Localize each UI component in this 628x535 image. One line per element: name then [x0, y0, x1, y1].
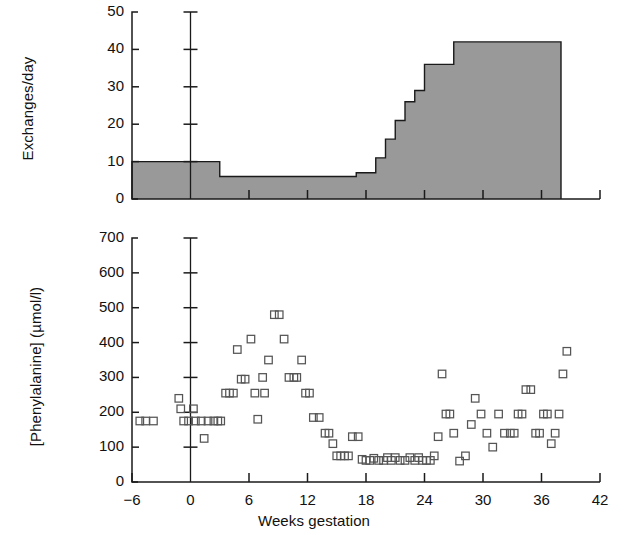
scatter-point — [285, 374, 293, 382]
top-panel-y-tick-label: 0 — [64, 189, 124, 206]
bottom-panel-y-axis-line — [132, 238, 138, 482]
scatter-point — [280, 335, 288, 343]
x-axis-tick-label: 12 — [278, 491, 338, 508]
scatter-point — [522, 386, 530, 394]
scatter-point — [471, 395, 479, 403]
top-panel-y-tick-label: 50 — [64, 2, 124, 19]
scatter-point — [489, 443, 497, 451]
scatter-point — [563, 348, 571, 356]
x-axis-title: Weeks gestation — [0, 512, 628, 529]
scatter-point — [401, 457, 409, 465]
scatter-point — [293, 374, 301, 382]
scatter-point — [265, 356, 273, 364]
scatter-point — [450, 429, 458, 437]
top-panel-y-tick-label: 30 — [64, 77, 124, 94]
bottom-panel-y-tick-label: 400 — [64, 333, 124, 350]
scatter-point — [254, 416, 262, 424]
scatter-point — [559, 370, 567, 378]
x-axis-tick-label: 30 — [453, 491, 513, 508]
x-axis-tick-label: 6 — [219, 491, 279, 508]
scatter-point — [247, 335, 255, 343]
exchanges-area-fill — [132, 42, 561, 199]
scatter-point — [234, 346, 242, 354]
scatter-point — [434, 433, 442, 441]
top-panel-y-axis-title: Exchanges/day — [19, 19, 36, 199]
scatter-point — [477, 410, 485, 418]
scatter-point — [259, 374, 267, 382]
x-axis-tick-label: 0 — [161, 491, 221, 508]
scatter-point — [527, 386, 535, 394]
top-panel-y-tick-label: 20 — [64, 114, 124, 131]
scatter-point — [495, 410, 503, 418]
scatter-point — [261, 389, 269, 397]
scatter-point — [200, 435, 208, 443]
scatter-point — [548, 440, 556, 448]
scatter-point — [175, 395, 183, 403]
scatter-point — [483, 429, 491, 437]
x-axis-tick-label: 18 — [336, 491, 396, 508]
x-axis-tick-label: 42 — [570, 491, 628, 508]
bottom-panel — [132, 238, 600, 482]
scatter-point — [468, 421, 476, 429]
scatter-point — [438, 370, 446, 378]
phenylalanine-scatter-markers — [136, 311, 571, 465]
x-axis-tick-label: 36 — [512, 491, 572, 508]
bottom-panel-y-tick-label: 200 — [64, 402, 124, 419]
bottom-panel-y-tick-label: 500 — [64, 298, 124, 315]
scatter-point — [177, 405, 185, 413]
bottom-panel-y-tick-label: 100 — [64, 437, 124, 454]
scatter-point — [406, 454, 414, 462]
scatter-point — [290, 374, 298, 382]
scatter-point — [298, 356, 306, 364]
scatter-point — [329, 440, 337, 448]
bottom-panel-y-axis-title: [Phenylalanine] (µmol/l) — [27, 242, 44, 492]
top-panel-y-ticks — [132, 49, 139, 161]
scatter-point — [555, 410, 563, 418]
scatter-point — [271, 311, 279, 319]
scatter-point — [275, 311, 283, 319]
scatter-point — [551, 429, 559, 437]
bottom-panel-x-ticks — [132, 473, 600, 482]
scatter-point — [375, 457, 383, 465]
top-panel-y-tick-label: 40 — [64, 39, 124, 56]
bottom-panel-y-tick-label: 0 — [64, 472, 124, 489]
bottom-panel-y-tick-label: 700 — [64, 228, 124, 245]
bottom-panel-y-tick-label: 600 — [64, 263, 124, 280]
scatter-point — [150, 417, 158, 425]
bottom-panel-y-tick-label: 300 — [64, 367, 124, 384]
x-axis-tick-label: 24 — [395, 491, 455, 508]
scatter-point — [251, 389, 259, 397]
x-axis-tick-label: −6 — [102, 491, 162, 508]
scatter-point — [396, 457, 404, 465]
top-panel-y-tick-label: 10 — [64, 152, 124, 169]
figure-container: Exchanges/day [Phenylalanine] (µmol/l) W… — [0, 0, 628, 535]
top-panel — [132, 12, 600, 199]
scatter-point — [180, 417, 188, 425]
